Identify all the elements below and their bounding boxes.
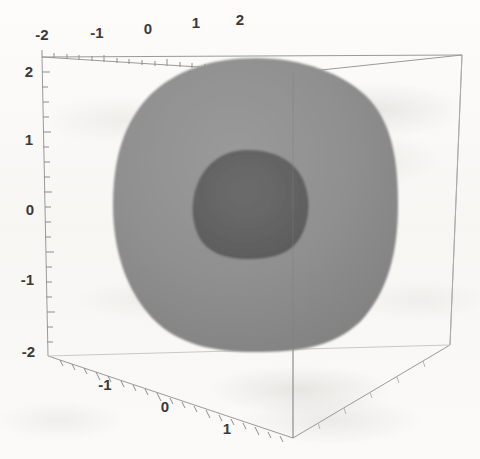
plot-canvas: -2 -1 0 1 2 2 1 0 -1 -2 -1 0 1 <box>0 0 480 459</box>
z-tick-label--1: -1 <box>21 271 34 288</box>
inner-sphere-solid <box>193 150 309 259</box>
x-tick-label-0: 0 <box>144 20 152 37</box>
y-axis-ticks-right <box>318 361 425 429</box>
z-tick-label-0: 0 <box>26 201 34 218</box>
figure-3d-plot: -2 -1 0 1 2 2 1 0 -1 -2 -1 0 1 <box>0 0 480 459</box>
x-tick-label-1: 1 <box>192 14 200 31</box>
x-tick-label-2: 2 <box>236 11 244 28</box>
frame-edge-bottom-left <box>48 356 293 438</box>
z-tick-label-2: 2 <box>25 63 33 80</box>
x-axis-tick-labels: -2 -1 0 1 2 <box>35 11 244 43</box>
y-tick-label-1: 1 <box>223 420 231 437</box>
z-tick-label-1: 1 <box>25 131 33 148</box>
z-axis-tick-labels: 2 1 0 -1 -2 <box>21 63 35 360</box>
y-axis-ticks <box>60 360 283 442</box>
frame-edge-top-back <box>42 55 462 57</box>
frame-edge-vertical-right-overlay <box>450 55 462 345</box>
z-axis-ticks <box>42 72 55 342</box>
y-axis-tick-labels: -1 0 1 <box>98 376 231 437</box>
z-tick-label--2: -2 <box>22 343 35 360</box>
y-tick-label--1: -1 <box>98 376 111 393</box>
y-tick-label-0: 0 <box>161 398 169 415</box>
x-tick-label--2: -2 <box>35 26 48 43</box>
frame-edge-bottom-right <box>293 345 450 438</box>
x-tick-label--1: -1 <box>90 24 103 41</box>
